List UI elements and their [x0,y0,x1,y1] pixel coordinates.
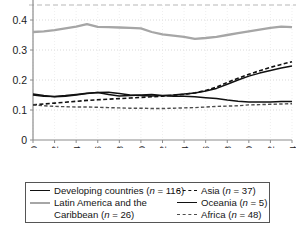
x-tick-label: 1998 [114,146,125,148]
chart-legend: Developing countries (n = 116)Latin Amer… [25,182,270,223]
y-tick-label: 0.1 [12,104,27,116]
legend-entry-label: Africa (n = 48) [201,209,262,221]
legend-entry-label: Caribbean (n = 26) [29,209,134,221]
y-tick-labels: 00.10.20.30.4 [12,14,27,146]
legend-entry: Africa (n = 48) [176,209,268,221]
x-tick-label: 2010 [243,146,254,148]
x-tick-label: 2000 [136,146,147,148]
legend-entry-label: Oceania (n = 5) [201,197,267,209]
series-line-developing-countries [33,66,292,97]
legend-swatch-solid-gray-icon [29,197,51,209]
x-tick-label: 1996 [92,146,103,148]
y-tick-label: 0.2 [12,74,27,86]
x-tick-labels: 1990199219941996199820002002200420062008… [28,146,296,148]
x-tick-label: 2006 [200,146,211,148]
y-tick-label: 0.4 [12,14,27,26]
x-tick-label: 2014 [287,146,296,148]
legend-entry: Developing countries (n = 116) [29,185,175,197]
x-tick-label: 1992 [49,146,60,148]
legend-entry: Caribbean (n = 26) [29,209,175,221]
legend-swatch-solid-black-icon [29,185,51,197]
x-tick-label: 2004 [179,146,190,148]
legend-entry: Oceania (n = 5) [176,197,268,209]
legend-entry: Asia (n = 37) [176,185,268,197]
plot-area: 00.10.20.30.4 19901992199419961998200020… [0,0,296,148]
legend-column-left: Developing countries (n = 116)Latin Amer… [29,185,175,221]
x-tick-label: 1994 [71,146,82,148]
data-series-group [33,24,292,108]
y-tick-label: 0.3 [12,44,27,56]
x-tick-label: 2008 [222,146,233,148]
legend-entry-label: Latin America and the [54,197,147,209]
legend-entry-label: Developing countries (n = 116) [54,185,184,197]
chart-figure: 00.10.20.30.4 19901992199419961998200020… [0,0,296,228]
legend-entry-label: Asia (n = 37) [201,185,256,197]
x-tick-label: 1990 [28,146,39,148]
y-tick-label: 0 [21,134,27,146]
legend-entry: Latin America and the [29,197,175,209]
series-line-oceania [33,93,292,102]
line-chart-svg: 00.10.20.30.4 19901992199419961998200020… [0,0,296,148]
legend-swatch-dash-gray-icon [176,209,198,221]
x-tick-label: 2002 [157,146,168,148]
legend-swatch-dash-black-icon [176,185,198,197]
legend-column-right: Asia (n = 37)Oceania (n = 5)Africa (n = … [176,185,268,221]
x-tick-label: 2012 [265,146,276,148]
legend-swatch-solid-black-icon [176,197,198,209]
